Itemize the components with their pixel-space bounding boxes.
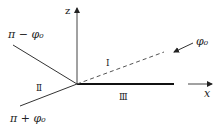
x-axis-label: x xyxy=(204,87,211,100)
incident-angle-label: φ₀ xyxy=(196,35,209,48)
region-three-label: Ⅲ xyxy=(119,92,128,102)
incident-arrow xyxy=(174,43,193,52)
region-one-label: Ⅰ xyxy=(106,58,110,68)
z-axis-label: z xyxy=(65,5,70,16)
shadow-boundary-label: π + φ₀ xyxy=(9,112,46,125)
incident-direction-dashed xyxy=(77,52,164,84)
wedge-diffraction-diagram: z x φ₀ π − φ₀ π + φ₀ Ⅰ Ⅱ Ⅲ xyxy=(0,0,223,126)
shadow-boundary-line xyxy=(20,84,77,106)
region-two-label: Ⅱ xyxy=(36,83,42,93)
reflection-boundary-label: π − φ₀ xyxy=(7,28,44,41)
reflection-boundary-line xyxy=(13,45,77,84)
